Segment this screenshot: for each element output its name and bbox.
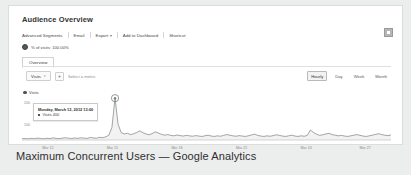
page-title: Audience Overview bbox=[22, 15, 93, 24]
toolbar-divider bbox=[163, 32, 164, 38]
legend-label: Visits bbox=[29, 90, 38, 95]
metric-selector-bar: Visits ▾ + Select a metric bbox=[26, 71, 96, 81]
granularity-month[interactable]: Month bbox=[372, 72, 390, 80]
granularity-week[interactable]: Week bbox=[351, 72, 368, 80]
chart-legend: Visits bbox=[23, 90, 39, 95]
visits-chart[interactable]: Visits 200 100 Monday, March 12, 2012 13… bbox=[22, 90, 391, 146]
chevron-down-icon: ▾ bbox=[44, 74, 46, 78]
toolbar-divider bbox=[117, 32, 118, 38]
metric-select[interactable]: Visits ▾ bbox=[26, 71, 51, 81]
grid-icon[interactable] bbox=[384, 28, 393, 37]
x-axis-tick-label: Mar 24 bbox=[301, 146, 312, 150]
y-axis-label-low: 100 bbox=[24, 123, 30, 127]
chevron-down-icon: ▾ bbox=[110, 34, 112, 38]
sampling-pie-icon bbox=[22, 44, 28, 50]
x-axis-tick-label: Mar 27 bbox=[360, 146, 371, 150]
tooltip-swatch-icon bbox=[38, 114, 40, 116]
tooltip-metric: Visits bbox=[42, 112, 51, 117]
legend-swatch-icon bbox=[23, 91, 27, 95]
metric-select-value: Visits bbox=[31, 74, 41, 79]
sampling-label: % of visits: 100.00% bbox=[31, 45, 69, 50]
toolbar-item-export[interactable]: Export▾ bbox=[96, 33, 117, 38]
granularity-day[interactable]: Day bbox=[332, 72, 345, 80]
granularity-hourly[interactable]: Hourly bbox=[307, 71, 327, 81]
figure-caption: Maximum Concurrent Users — Google Analyt… bbox=[16, 150, 256, 162]
chart-peak-point bbox=[114, 97, 116, 99]
tooltip-number: 400 bbox=[53, 112, 60, 117]
metric-hint-label: Select a metric bbox=[68, 74, 96, 79]
tooltip-value: Visits 400 bbox=[38, 112, 93, 118]
toolbar-divider bbox=[68, 32, 69, 38]
chart-tooltip: Monday, March 12, 2012 13:00 Visits 400 bbox=[33, 103, 98, 121]
toolbar-item-add-to-dashboard[interactable]: Add to Dashboard bbox=[123, 33, 163, 38]
toolbar-item-email[interactable]: Email bbox=[74, 33, 90, 38]
granularity-buttons: HourlyDayWeekMonth bbox=[307, 71, 390, 81]
sampling-row: % of visits: 100.00% bbox=[22, 44, 69, 50]
add-metric-button[interactable]: + bbox=[55, 72, 64, 81]
toolbar-divider bbox=[90, 32, 91, 38]
report-toolbar: Advanced SegmentsEmailExport▾Add to Dash… bbox=[22, 32, 190, 38]
tab-divider bbox=[22, 66, 391, 67]
toolbar-item-advanced-segments[interactable]: Advanced Segments bbox=[22, 33, 68, 38]
analytics-card: Audience Overview Advanced SegmentsEmail… bbox=[8, 5, 403, 145]
toolbar-item-shortcut[interactable]: Shortcut bbox=[169, 33, 190, 38]
screenshot-root: Audience Overview Advanced SegmentsEmail… bbox=[0, 0, 411, 175]
y-axis-label-high: 200 bbox=[24, 101, 30, 105]
